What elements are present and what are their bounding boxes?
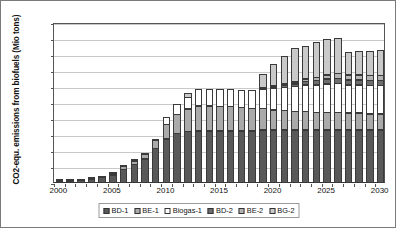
bar-column: [131, 158, 138, 182]
legend-swatch-icon: [208, 208, 214, 214]
bar-column: [227, 88, 234, 182]
bar-segment: [173, 133, 180, 183]
bar-column: [302, 42, 309, 182]
bar-segment: [313, 130, 320, 183]
bar-column: [270, 62, 277, 182]
bar-segment: [345, 52, 352, 75]
bar-column: [66, 180, 73, 182]
bar-column: [195, 88, 202, 182]
bar-segment: [184, 131, 191, 182]
bar-column: [98, 175, 105, 182]
bar-segment: [291, 86, 298, 112]
bar-segment: [302, 111, 309, 130]
bar-segment: [152, 148, 159, 182]
legend-item: BD-2: [208, 206, 233, 215]
bar-segment: [206, 106, 213, 132]
bar-segment: [109, 175, 116, 183]
chart-screenshot: CO2-equ. emissions from biofuels (Mio to…: [0, 0, 398, 230]
bar-segment: [270, 130, 277, 183]
x-tick-label: 2010: [157, 186, 175, 195]
legend-label: BD-2: [216, 206, 233, 215]
bar-segment: [216, 131, 223, 183]
legend-swatch-icon: [104, 208, 110, 214]
bar-segment: [195, 89, 202, 106]
bar-segment: [88, 179, 95, 183]
bar-column: [238, 88, 245, 182]
bar-segment: [323, 39, 330, 75]
bar-segment: [323, 130, 330, 183]
bar-column: [216, 88, 223, 182]
bar-column: [184, 91, 191, 182]
bar-segment: [184, 109, 191, 132]
bar-segment: [334, 112, 341, 130]
bar-segment: [334, 38, 341, 74]
bar-segment: [345, 130, 352, 183]
bar-column: [291, 44, 298, 182]
bar-segment: [355, 113, 362, 131]
bar-segment: [270, 110, 277, 131]
bar-segment: [302, 130, 309, 183]
bar-column: [152, 138, 159, 182]
bar-segment: [313, 112, 320, 130]
bar-column: [313, 38, 320, 182]
legend-label: BE-2: [247, 206, 263, 215]
bar-column: [377, 47, 384, 182]
bar-column: [259, 72, 266, 182]
bar-segment: [270, 88, 277, 110]
chart-legend: BD-1BE-1Biogas-1BD-2BE-2BG-2: [99, 203, 300, 218]
bar-series-group: [54, 24, 384, 182]
bar-segment: [345, 113, 352, 131]
x-tick-label: 2020: [264, 186, 282, 195]
bar-segment: [377, 85, 384, 114]
bar-segment: [163, 124, 170, 139]
bar-segment: [334, 130, 341, 183]
bar-segment: [291, 130, 298, 183]
bar-segment: [216, 89, 223, 107]
bar-segment: [259, 89, 266, 109]
bar-segment: [377, 130, 384, 183]
x-tick-label: 2030: [371, 186, 389, 195]
bar-column: [88, 177, 95, 182]
legend-item: BE-1: [134, 206, 158, 215]
bar-segment: [227, 106, 234, 131]
bar-segment: [163, 139, 170, 183]
bar-segment: [281, 56, 288, 85]
x-tick-label: 2025: [317, 186, 335, 195]
bar-segment: [227, 89, 234, 107]
bar-segment: [291, 48, 298, 82]
bar-segment: [313, 42, 320, 78]
legend-swatch-icon: [165, 208, 171, 214]
y-axis-title: CO2-equ. emissions from biofuels (Mio to…: [12, 25, 21, 185]
bar-segment: [173, 104, 180, 115]
x-tick-label: 2015: [210, 186, 228, 195]
legend-item: Biogas-1: [165, 206, 202, 215]
legend-item: BD-1: [104, 206, 129, 215]
legend-swatch-icon: [239, 208, 245, 214]
bar-segment: [259, 130, 266, 183]
bar-segment: [248, 131, 255, 183]
bar-segment: [281, 87, 288, 111]
plot-area: [53, 23, 385, 183]
bar-segment: [345, 85, 352, 114]
bar-segment: [120, 169, 127, 183]
bar-segment: [313, 85, 320, 113]
legend-label: Biogas-1: [173, 206, 202, 215]
bar-column: [56, 180, 63, 182]
legend-item: BE-2: [239, 206, 263, 215]
bar-segment: [281, 130, 288, 183]
bar-segment: [173, 114, 180, 133]
bar-segment: [281, 110, 288, 130]
bar-segment: [238, 90, 245, 108]
bar-column: [248, 88, 255, 182]
bar-segment: [366, 51, 373, 76]
x-tick-label: 2000: [49, 186, 67, 195]
bar-column: [77, 179, 84, 182]
bar-column: [163, 116, 170, 182]
bar-segment: [259, 74, 266, 88]
bar-segment: [195, 131, 202, 183]
bar-segment: [131, 164, 138, 182]
x-tick-label: 2005: [103, 186, 121, 195]
legend-label: BD-1: [112, 206, 129, 215]
bar-column: [109, 171, 116, 182]
legend-item: BG-2: [269, 206, 294, 215]
